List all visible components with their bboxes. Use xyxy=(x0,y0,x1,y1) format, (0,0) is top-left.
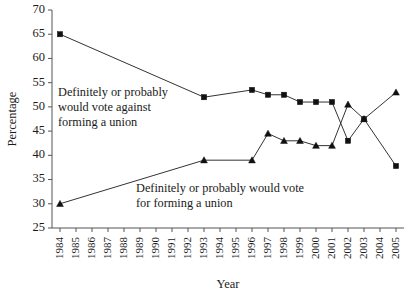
y-tick-label: 30 xyxy=(33,196,46,210)
x-tick-marks xyxy=(60,228,396,232)
data-point-marker xyxy=(265,130,272,136)
annotation-for-line-2: for forming a union xyxy=(136,196,233,210)
y-tick-labels: 25303540455055606570 xyxy=(33,2,46,234)
data-point-marker xyxy=(249,87,254,92)
annotation-for: Definitely or probably would vote for fo… xyxy=(136,181,305,210)
y-tick-label: 70 xyxy=(33,2,46,16)
x-tick-label: 1994 xyxy=(213,237,225,260)
x-tick-labels: 1984198519861987198819891990199119921993… xyxy=(53,237,401,260)
x-tick-label: 1993 xyxy=(197,237,209,260)
data-point-marker xyxy=(393,89,400,95)
x-tick-label: 1989 xyxy=(133,237,145,260)
x-tick-label: 1990 xyxy=(149,237,161,260)
x-tick-label: 1999 xyxy=(293,237,305,260)
data-point-marker xyxy=(345,138,350,143)
data-point-marker xyxy=(393,163,398,168)
chart-container: 25303540455055606570 Percentage 19841985… xyxy=(0,0,414,294)
data-point-marker xyxy=(297,99,302,104)
data-point-marker xyxy=(265,92,270,97)
data-point-marker xyxy=(345,101,352,107)
y-tick-label: 50 xyxy=(33,99,46,113)
x-tick-label: 1986 xyxy=(85,237,97,260)
annotation-against: Definitely or probably would vote agains… xyxy=(58,85,169,129)
y-tick-marks xyxy=(48,10,52,228)
x-tick-label: 2002 xyxy=(341,237,353,259)
x-axis-group: 1984198519861987198819891990199119921993… xyxy=(52,228,404,291)
x-tick-label: 1987 xyxy=(101,237,113,260)
data-point-marker xyxy=(57,32,62,37)
x-tick-label: 1996 xyxy=(245,237,257,260)
x-tick-label: 1998 xyxy=(277,237,289,260)
data-point-marker xyxy=(201,95,206,100)
annotation-against-line-1: Definitely or probably xyxy=(58,85,169,99)
y-tick-label: 35 xyxy=(33,171,46,185)
x-tick-label: 2004 xyxy=(373,237,385,260)
x-tick-label: 1992 xyxy=(181,237,193,259)
data-point-marker xyxy=(281,92,286,97)
data-point-marker xyxy=(313,99,318,104)
x-tick-label: 1985 xyxy=(69,237,81,260)
y-tick-label: 60 xyxy=(33,50,46,64)
x-tick-label: 1997 xyxy=(261,237,273,260)
y-tick-label: 25 xyxy=(33,220,46,234)
x-tick-label: 1988 xyxy=(117,237,129,260)
x-tick-label: 2003 xyxy=(357,237,369,260)
annotation-for-line-1: Definitely or probably would vote xyxy=(136,181,305,195)
line-chart: 25303540455055606570 Percentage 19841985… xyxy=(0,0,414,294)
x-tick-label: 2000 xyxy=(309,237,321,260)
x-tick-label: 1991 xyxy=(165,237,177,259)
y-tick-label: 65 xyxy=(33,26,46,40)
annotation-against-line-3: forming a union xyxy=(58,115,137,129)
x-tick-label: 1984 xyxy=(53,237,65,260)
y-tick-label: 45 xyxy=(33,123,46,137)
x-axis-title: Year xyxy=(216,277,240,291)
y-tick-label: 55 xyxy=(33,75,46,89)
x-tick-label: 2005 xyxy=(389,237,401,260)
y-axis-group: 25303540455055606570 Percentage xyxy=(5,2,52,234)
y-axis-title: Percentage xyxy=(5,91,19,146)
y-tick-label: 40 xyxy=(33,147,46,161)
x-tick-label: 1995 xyxy=(229,237,241,260)
x-tick-label: 2001 xyxy=(325,237,337,259)
data-point-marker xyxy=(329,99,334,104)
annotation-against-line-2: would vote against xyxy=(58,100,151,114)
